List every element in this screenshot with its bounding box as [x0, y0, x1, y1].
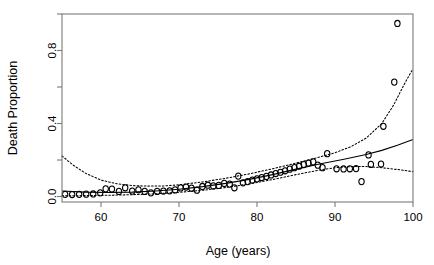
data-point: [183, 184, 188, 190]
data-point: [109, 186, 114, 192]
x-tick-label: 80: [251, 211, 264, 223]
y-axis-ticks: 0.00.40.8: [46, 14, 62, 205]
data-point: [103, 186, 108, 192]
data-point: [359, 178, 364, 184]
data-point: [232, 185, 237, 191]
plot-frame: [62, 14, 413, 202]
data-point: [334, 166, 339, 172]
data-point: [62, 191, 67, 197]
data-point: [178, 185, 183, 191]
x-tick-label: 60: [95, 211, 108, 223]
upper-confidence-band: [62, 69, 413, 186]
data-point: [122, 185, 127, 191]
x-tick-label: 70: [173, 211, 186, 223]
scatter-plot: 60708090100 0.00.40.8 Age (years) Death …: [0, 0, 434, 265]
y-axis-title: Death Proportion: [6, 61, 20, 156]
plot-border: [62, 14, 413, 202]
data-point: [381, 123, 386, 129]
data-point: [116, 188, 121, 194]
chart-container: 60708090100 0.00.40.8 Age (years) Death …: [0, 0, 434, 265]
x-axis-ticks: 60708090100: [95, 202, 423, 223]
data-point: [325, 151, 330, 157]
data-point: [378, 161, 383, 167]
y-tick-label: 0.8: [46, 43, 58, 59]
data-point: [395, 20, 400, 26]
data-point: [69, 191, 74, 197]
y-tick-label: 0.4: [46, 115, 58, 132]
x-tick-label: 100: [403, 211, 422, 223]
data-point: [392, 79, 397, 85]
data-point: [216, 182, 221, 188]
data-points-layer: [62, 20, 400, 197]
data-point: [130, 188, 135, 194]
confidence-band-layer: [62, 69, 413, 196]
y-tick-label: 0.0: [46, 189, 58, 205]
data-point: [341, 166, 346, 172]
x-tick-label: 90: [329, 211, 342, 223]
x-axis-title: Age (years): [206, 244, 271, 258]
